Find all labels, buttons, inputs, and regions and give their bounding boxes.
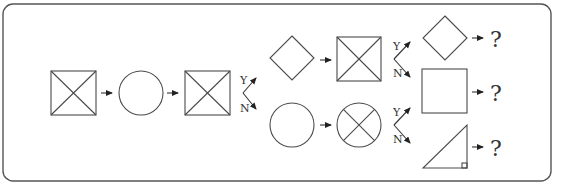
question-mark-3: ? <box>490 136 502 161</box>
shape-sequence-diagram: Y N Y N Y N ? ? ? <box>0 0 564 187</box>
yes-label: Y <box>392 40 401 53</box>
yes-label: Y <box>392 106 401 119</box>
no-label: N <box>393 133 403 146</box>
no-label: N <box>393 67 403 80</box>
yes-label: Y <box>239 74 248 87</box>
question-mark-1: ? <box>490 27 502 52</box>
no-label: N <box>240 102 250 115</box>
question-mark-2: ? <box>490 81 502 106</box>
outer-frame <box>3 4 551 181</box>
